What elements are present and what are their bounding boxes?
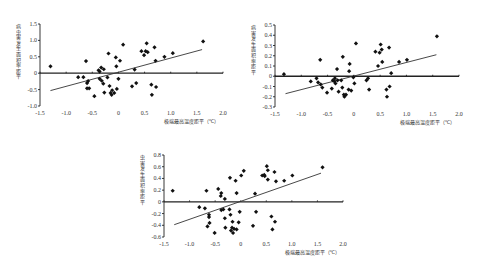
x-axis-title: 极端最高温度距平（℃）	[164, 118, 220, 125]
data-point-marker	[251, 224, 255, 228]
data-point-marker	[380, 48, 384, 52]
x-axis-title: 极端最高温度距平（℃）	[400, 119, 456, 126]
data-point-marker	[205, 224, 209, 228]
data-point-marker	[348, 62, 352, 66]
data-point-marker	[242, 169, 246, 173]
data-point-marker	[341, 55, 345, 59]
y-axis-title: 虫害发生面积率距平	[140, 154, 145, 206]
svg-text:平: 平	[251, 69, 256, 76]
y-tick-label: -0.5	[28, 87, 38, 93]
data-point-marker	[228, 176, 232, 180]
scatter-chart-insect-area-rate: -0.6-0.4-0.200.20.40.60.8-1.5-1.0-0.500.…	[134, 151, 349, 259]
x-tick-label: 1.5	[193, 110, 201, 116]
y-tick-label: -0.6	[152, 234, 162, 240]
x-tick-label: 1.0	[288, 241, 296, 247]
data-point-marker	[149, 83, 153, 87]
x-tick-label: 2.0	[339, 241, 347, 247]
data-point-marker	[197, 205, 201, 209]
x-tick-label: 0.5	[376, 111, 384, 117]
scatter-chart-disease-area-rate: -0.3-0.2-0.100.10.20.30.40.5-1.5-1.0-0.5…	[245, 21, 465, 129]
data-point-marker	[320, 165, 324, 169]
data-point-marker	[380, 60, 384, 64]
data-point-marker	[352, 81, 356, 85]
x-tick-label: 0.5	[263, 241, 271, 247]
svg-text:平: 平	[16, 73, 21, 80]
x-tick-label: 2.0	[455, 111, 463, 117]
data-point-marker	[266, 178, 270, 182]
data-point-marker	[223, 216, 227, 220]
y-tick-label: 0.2	[154, 187, 162, 193]
data-point-marker	[114, 55, 118, 59]
data-point-marker	[269, 214, 273, 218]
data-point-marker	[235, 191, 239, 195]
x-tick-label: -1.0	[297, 111, 307, 117]
data-point-marker	[150, 93, 154, 97]
data-point-marker	[115, 87, 119, 91]
data-point-marker	[171, 189, 175, 193]
y-tick-label: 0.6	[154, 164, 162, 170]
y-tick-label: 0	[269, 73, 272, 79]
data-point-marker	[387, 45, 391, 49]
data-point-marker	[373, 50, 377, 54]
data-point-marker	[309, 79, 313, 83]
data-point-marker	[290, 173, 294, 177]
data-point-marker	[48, 64, 52, 68]
y-tick-label: -0.1	[263, 84, 273, 90]
y-tick-label: -0.4	[152, 222, 162, 228]
x-tick-label: -0.5	[210, 241, 220, 247]
data-point-marker	[330, 86, 334, 90]
y-axis-title: 病害发生面积率距平	[251, 24, 256, 76]
data-point-marker	[340, 85, 344, 89]
data-point-marker	[116, 77, 120, 81]
data-point-marker	[204, 189, 208, 193]
data-point-marker	[223, 226, 227, 230]
x-tick-label: -1.5	[270, 111, 280, 117]
data-point-marker	[154, 85, 158, 89]
data-point-marker	[378, 51, 382, 55]
data-point-marker	[273, 220, 277, 224]
data-point-marker	[81, 75, 85, 79]
data-point-marker	[230, 220, 234, 224]
y-tick-label: -0.2	[152, 211, 162, 217]
data-point-marker	[272, 170, 276, 174]
y-tick-label: 0.1	[265, 63, 273, 69]
svg-text:平: 平	[140, 199, 145, 206]
x-tick-label: 1.0	[403, 111, 411, 117]
data-point-marker	[282, 179, 286, 183]
y-tick-label: 1.5	[30, 21, 38, 27]
regression-line	[286, 55, 437, 94]
x-tick-label: 0	[352, 111, 355, 117]
data-point-marker	[84, 59, 88, 63]
data-point-marker	[201, 39, 205, 43]
data-point-marker	[171, 51, 175, 55]
data-point-marker	[152, 45, 156, 49]
y-tick-label: 0.8	[154, 152, 162, 158]
data-point-marker	[145, 41, 149, 45]
x-tick-label: 1.5	[429, 111, 437, 117]
data-point-marker	[114, 64, 118, 68]
data-point-marker	[106, 51, 110, 55]
y-tick-label: -1.0	[28, 103, 38, 109]
data-point-marker	[130, 84, 134, 88]
data-point-marker	[227, 207, 231, 211]
data-point-marker	[76, 75, 80, 79]
data-point-marker	[376, 64, 380, 68]
data-point-marker	[107, 84, 111, 88]
regression-line	[174, 173, 321, 225]
y-tick-label: 0.4	[265, 32, 273, 38]
data-point-marker	[379, 42, 383, 46]
x-tick-label: 2.0	[219, 110, 227, 116]
data-point-marker	[238, 210, 242, 214]
data-point-marker	[239, 173, 243, 177]
y-tick-label: -0.2	[263, 94, 273, 100]
data-point-marker	[325, 91, 329, 95]
data-point-marker	[389, 71, 393, 75]
data-point-marker	[347, 69, 351, 73]
data-point-marker	[270, 227, 274, 231]
data-point-marker	[318, 58, 322, 62]
x-tick-label: -1.5	[35, 110, 45, 116]
y-axis-title: 病虫害发生面积率距平	[16, 23, 21, 80]
data-point-marker	[134, 81, 138, 85]
data-point-marker	[102, 90, 106, 94]
y-tick-label: 0.5	[30, 54, 38, 60]
